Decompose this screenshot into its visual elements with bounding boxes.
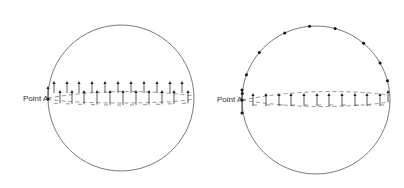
- arrowhead-icon: [315, 93, 318, 96]
- circumference-dot: [241, 89, 244, 92]
- arrowhead-icon: [172, 90, 175, 93]
- arrowhead-icon: [70, 90, 73, 93]
- circumference-dot: [245, 73, 248, 76]
- arrowhead-icon: [58, 90, 61, 93]
- circumference-dot: [362, 42, 365, 45]
- diagram-canvas: Point A Point A: [0, 0, 404, 188]
- arrowhead-icon: [340, 93, 343, 96]
- arrowhead-icon: [65, 81, 68, 84]
- arrowhead-icon: [365, 93, 368, 96]
- point-a-label-right: Point A: [217, 95, 243, 104]
- left-sphere-figure: [46, 25, 194, 171]
- sphere-outline: [242, 26, 390, 174]
- band-lower-dashed: [48, 98, 194, 103]
- arrowhead-icon: [129, 81, 132, 84]
- arrowhead-icon: [90, 81, 93, 84]
- band-upper-dashed: [48, 91, 194, 98]
- point-a-label-left: Point A: [23, 94, 49, 103]
- arrowhead-icon: [160, 90, 163, 93]
- circumference-dot: [379, 62, 382, 65]
- right-sphere-figure: [240, 25, 390, 174]
- circumference-dot: [334, 27, 337, 30]
- arrowhead-icon: [378, 93, 381, 96]
- circumference-dot: [386, 79, 389, 82]
- arrowhead-icon: [186, 90, 189, 93]
- arrowhead-icon: [142, 81, 145, 84]
- arrowhead-icon: [302, 93, 305, 96]
- arrowhead-icon: [95, 90, 98, 93]
- arrowhead-icon: [155, 81, 158, 84]
- arrowhead-icon: [327, 93, 330, 96]
- arrowhead-icon: [251, 93, 254, 96]
- arrowhead-icon: [168, 81, 171, 84]
- circumference-dot: [283, 31, 286, 34]
- arrowhead-icon: [82, 90, 85, 93]
- arrowhead-icon: [103, 81, 106, 84]
- circumference-dot: [258, 51, 261, 54]
- band-lower-dashed: [242, 100, 390, 107]
- arrowhead-icon: [353, 93, 356, 96]
- circumference-dot: [308, 25, 311, 28]
- circumference-dot: [241, 112, 244, 115]
- arrowhead-icon: [116, 81, 119, 84]
- arrowhead-icon: [77, 81, 80, 84]
- arrowhead-icon: [121, 90, 124, 93]
- arrowhead-icon: [180, 81, 183, 84]
- sphere-outline: [48, 25, 194, 171]
- arrowhead-icon: [52, 81, 55, 84]
- arrowhead-icon: [264, 93, 267, 96]
